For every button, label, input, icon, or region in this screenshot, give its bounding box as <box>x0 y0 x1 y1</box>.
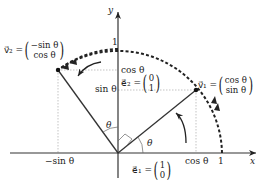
x-tick-neg-sin: −sin θ <box>45 157 74 166</box>
e1-label: e⃗₁ =(10) <box>132 160 173 180</box>
arc-arrow-icon <box>214 103 220 111</box>
angle-arc-1 <box>138 137 143 153</box>
e2-label: e⃗₂ =(01) <box>121 73 162 93</box>
angle-theta-2: θ <box>106 121 111 130</box>
y-axis-label: y <box>108 6 113 15</box>
rotation-arrow-icon <box>78 62 101 76</box>
x-axis-label: x <box>250 157 255 166</box>
x-tick-one: 1 <box>218 157 224 166</box>
rotation-diagram: y x 1 1 cos θ −sin θ cos θ sin θ θ θ e⃗₂… <box>0 0 263 185</box>
vector-v2 <box>58 70 118 153</box>
angle-theta-1: θ <box>147 139 152 148</box>
right-angle-mark <box>118 134 132 147</box>
v2-label: v⃗₂ =(−sin θcos θ) <box>4 40 66 60</box>
x-tick-cos: cos θ <box>185 157 208 166</box>
y-tick-sin: sin θ <box>95 85 117 94</box>
rotation-arrow-icon <box>176 113 186 143</box>
y-tick-one: 1 <box>112 38 118 47</box>
vector-v1 <box>118 90 196 153</box>
v1-label: v⃗₁ =(cos θsin θ) <box>198 75 255 95</box>
